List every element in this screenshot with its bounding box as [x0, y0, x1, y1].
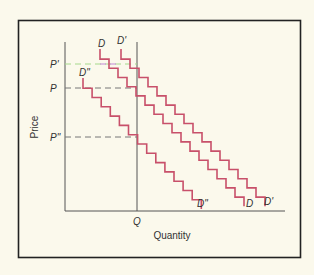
- x-axis-label: Quantity: [153, 230, 190, 241]
- demand-curves: [83, 49, 265, 209]
- d-prime-top-label: D': [117, 35, 127, 46]
- d-top-label: D: [98, 38, 105, 49]
- d-prime-bottom-label: D': [264, 196, 274, 207]
- d-double-prime-bottom-label: D": [197, 198, 208, 209]
- p-prime-tick-label: P': [50, 59, 60, 70]
- y-axis-label: Price: [29, 115, 40, 138]
- d-double-prime-top-label: D": [79, 67, 90, 78]
- p-double-prime-tick-label: P": [50, 132, 61, 143]
- demand-curve-d-double-prime: [83, 78, 201, 209]
- d-bottom-label: D: [246, 198, 253, 209]
- demand-chart: Price Quantity Q P' P P" D D' D" D" D D': [0, 0, 314, 275]
- demand-curve-d-prime: [121, 49, 265, 206]
- q-tick-label: Q: [133, 216, 141, 227]
- p-tick-label: P: [50, 83, 57, 94]
- demand-curve-d: [100, 49, 244, 206]
- chart-frame: [19, 21, 301, 258]
